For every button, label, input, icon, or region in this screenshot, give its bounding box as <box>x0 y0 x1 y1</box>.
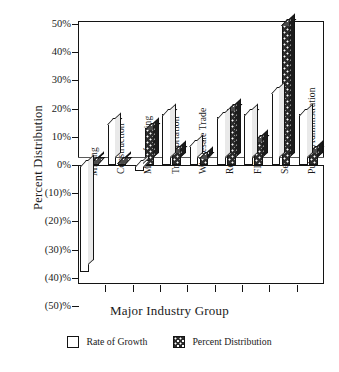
legend-swatch-percent-distribution <box>173 336 185 348</box>
x-tick-mark <box>105 285 106 292</box>
bar-side-face <box>225 107 231 158</box>
bar-retail-trade-rate-of-growth <box>217 117 226 165</box>
y-tick-label: (30)% <box>15 245 71 255</box>
x-tick-mark <box>187 285 188 292</box>
bar-transportation-rate-of-growth <box>162 114 171 165</box>
bar-chart: Percent Distribution 50%40%30%20%10%0%(1… <box>0 0 339 372</box>
bar-side-face <box>170 104 176 158</box>
bar-construction-percent-distribution <box>118 162 127 165</box>
legend-label-percent-distribution: Percent Distribution <box>192 336 271 348</box>
y-tick-label: 50% <box>15 19 71 29</box>
bar-side-face <box>262 129 268 158</box>
y-tick-mark <box>72 278 79 279</box>
x-tick-mark <box>242 285 243 292</box>
y-tick-mark <box>72 221 79 222</box>
y-tick-label: 0% <box>15 160 71 170</box>
bar-manufacturing-rate-of-growth <box>135 165 144 171</box>
x-tick-mark <box>269 285 270 292</box>
bar-side-face <box>88 155 94 266</box>
y-tick-mark <box>72 250 79 251</box>
x-tick-mark <box>297 285 298 292</box>
bar-wholesale-trade-rate-of-growth <box>190 145 199 165</box>
y-tick-label: 20% <box>15 104 71 114</box>
legend-label-rate-of-growth: Rate of Growth <box>86 336 147 348</box>
bar-public-administration-rate-of-growth <box>299 114 308 165</box>
y-tick-mark <box>72 80 79 81</box>
y-tick-label: (20)% <box>15 216 71 226</box>
y-axis-title: Percent Distribution <box>31 58 46 258</box>
x-tick-mark <box>215 285 216 292</box>
bar-side-face <box>289 14 295 158</box>
bar-services-rate-of-growth <box>272 92 281 165</box>
bar-side-face <box>115 112 121 158</box>
bar-side-face <box>307 104 313 158</box>
bar-side-face <box>279 81 285 158</box>
y-tick-mark <box>72 52 79 53</box>
legend-item-percent-distribution: Percent Distribution <box>173 336 271 348</box>
x-tick-mark <box>133 285 134 292</box>
bar-side-face <box>235 98 241 158</box>
chart-legend: Rate of Growth Percent Distribution <box>0 336 339 348</box>
y-tick-mark <box>72 24 79 25</box>
y-tick-label: 10% <box>15 132 71 142</box>
bar-wholesale-trade-percent-distribution <box>200 157 209 165</box>
x-tick-mark <box>160 285 161 292</box>
legend-swatch-rate-of-growth <box>67 336 79 348</box>
legend-item-rate-of-growth: Rate of Growth <box>67 336 147 348</box>
bar-side-face <box>153 118 159 158</box>
x-axis-title: Major Industry Group <box>0 303 339 319</box>
y-tick-label: (10)% <box>15 188 71 198</box>
bar-side-face <box>252 104 258 158</box>
y-tick-mark <box>72 193 79 194</box>
y-tick-mark <box>72 109 79 110</box>
y-tick-label: 40% <box>15 47 71 57</box>
y-tick-label: (40)% <box>15 273 71 283</box>
bar-fire-rate-of-growth <box>244 114 253 165</box>
bar-mining-rate-of-growth <box>80 165 89 272</box>
y-tick-label: 30% <box>15 75 71 85</box>
y-tick-mark <box>72 137 79 138</box>
bar-construction-rate-of-growth <box>108 123 117 165</box>
